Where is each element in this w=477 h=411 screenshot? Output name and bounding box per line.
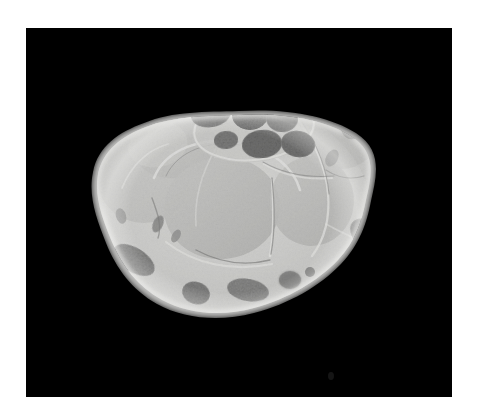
anatomical-cross-section-image xyxy=(26,28,452,397)
page-root: Grayscale anatomical cross-section of a … xyxy=(0,0,477,411)
background-noise-speck xyxy=(328,372,334,380)
scan-image-frame xyxy=(26,28,452,397)
